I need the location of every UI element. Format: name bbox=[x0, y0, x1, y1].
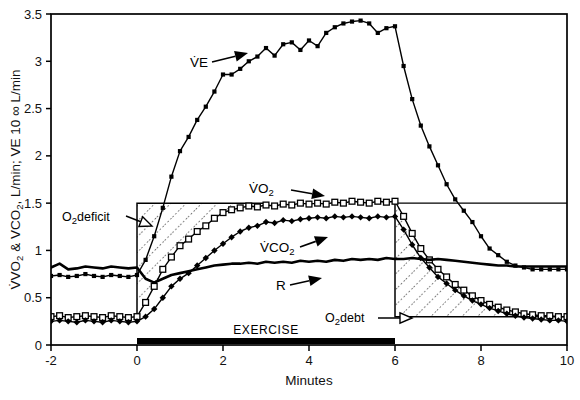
svg-text:O2debt: O2debt bbox=[325, 311, 365, 327]
svg-text:V̇O2: V̇O2 bbox=[249, 181, 274, 198]
o2-deficit-region bbox=[137, 203, 266, 316]
x-tick-label: 0 bbox=[133, 353, 140, 368]
y-tick-label: 0.5 bbox=[24, 290, 42, 305]
svg-text:R: R bbox=[276, 278, 286, 293]
y-tick-label: 1.5 bbox=[24, 196, 42, 211]
x-tick-label: 4 bbox=[305, 353, 312, 368]
svg-text:V̇VO2 & VCO2, L/min; VE 10 ∞ L: V̇VO2 & VCO2, L/min; VE 10 ∞ L/min bbox=[8, 70, 25, 290]
exercise-bar-label: EXERCISE bbox=[233, 323, 299, 337]
series-label-r: R bbox=[276, 276, 322, 294]
x-tick-label: 8 bbox=[477, 353, 484, 368]
series-ve bbox=[49, 19, 569, 279]
y-tick-label: 3.5 bbox=[24, 7, 42, 22]
svg-text:V̇E: V̇E bbox=[190, 55, 208, 70]
figure-root: 00.511.522.533.5-20246810V̇VO2 & VCO2, L… bbox=[0, 0, 580, 400]
y-tick-label: 3 bbox=[35, 54, 42, 69]
svg-text:O2deficit: O2deficit bbox=[62, 210, 110, 226]
series-label-vo2: V̇O2 bbox=[249, 181, 325, 199]
respiratory-response-chart: 00.511.522.533.5-20246810V̇VO2 & VCO2, L… bbox=[0, 0, 580, 400]
y-tick-label: 2 bbox=[35, 148, 42, 163]
x-tick-label: 10 bbox=[560, 353, 574, 368]
x-tick-label: 6 bbox=[391, 353, 398, 368]
y-tick-label: 2.5 bbox=[24, 101, 42, 116]
y-axis-title: V̇VO2 & VCO2, L/min; VE 10 ∞ L/min bbox=[8, 70, 25, 290]
svg-text:V̇CO2: V̇CO2 bbox=[260, 240, 295, 257]
series-label-vco2: V̇CO2 bbox=[260, 236, 328, 257]
y-tick-label: 1 bbox=[35, 243, 42, 258]
x-tick-label: 2 bbox=[219, 353, 226, 368]
plot-frame bbox=[51, 14, 567, 345]
y-tick-label: 0 bbox=[35, 338, 42, 353]
exercise-bar: EXERCISE bbox=[137, 323, 395, 344]
plot-area bbox=[48, 19, 570, 326]
x-tick-label: -2 bbox=[45, 353, 57, 368]
x-axis-title: Minutes bbox=[285, 373, 333, 388]
